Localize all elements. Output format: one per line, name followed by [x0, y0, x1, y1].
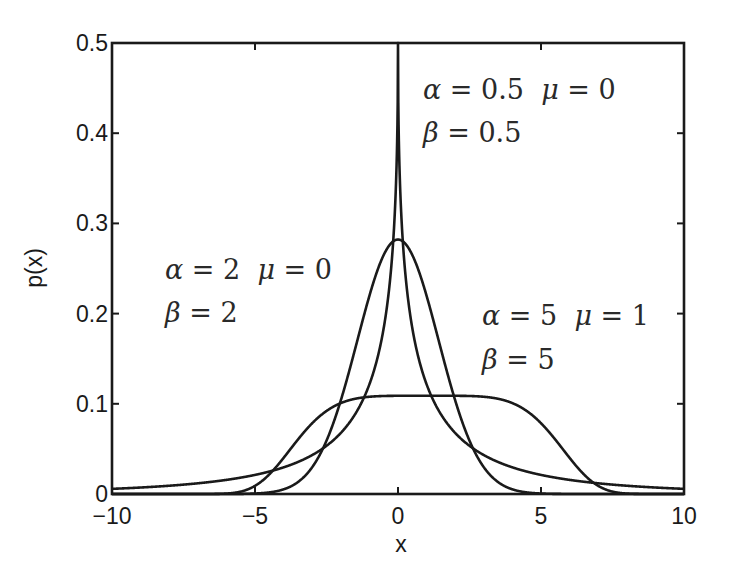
y-axis-label: p(x) [21, 248, 47, 288]
curve-annotations: α = 0.5 μ = 0β = 0.5α = 2 μ = 0β = 2α = … [164, 74, 649, 375]
annotation-1-line1: α = 0.5 μ = 0 [423, 74, 616, 105]
x-axis-label: x [395, 531, 407, 557]
y-tick-label: 0.3 [76, 210, 108, 236]
annotation-2-line2: β = 2 [164, 297, 238, 328]
x-tick-label: 10 [671, 503, 697, 529]
x-tick-label: 5 [535, 503, 548, 529]
curve-series-3 [112, 396, 684, 494]
y-tick-label: 0 [95, 481, 108, 507]
y-tick-label: 0.5 [76, 30, 108, 56]
y-tick-label: 0.1 [76, 391, 108, 417]
x-axis: −10−50510 [92, 43, 696, 529]
x-tick-label: 0 [392, 503, 405, 529]
annotation-1-line2: β = 0.5 [422, 117, 521, 148]
x-tick-label: −5 [242, 503, 268, 529]
generalized-gaussian-chart: −10−50510 00.10.20.30.40.5 x p(x) α = 0.… [0, 0, 734, 585]
annotation-3-line1: α = 5 μ = 1 [482, 300, 649, 331]
annotation-2-line1: α = 2 μ = 0 [165, 254, 332, 285]
annotation-3-line2: β = 5 [481, 344, 555, 375]
y-tick-label: 0.2 [76, 301, 108, 327]
y-tick-label: 0.4 [76, 120, 108, 146]
